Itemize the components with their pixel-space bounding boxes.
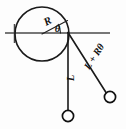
pendulum-bob-icon-wrapped: [104, 91, 115, 102]
label-angle-theta: θ: [55, 23, 61, 34]
pendulum-cylinder-diagram: R θ L L + Rθ: [0, 0, 126, 129]
physics-diagram-container: R θ L L + Rθ: [0, 0, 126, 129]
label-radius: R: [40, 14, 53, 29]
label-string-vertical: L: [65, 75, 76, 82]
pendulum-bob-icon-vertical: [62, 110, 73, 121]
label-string-wrapped: L + Rθ: [81, 41, 106, 72]
